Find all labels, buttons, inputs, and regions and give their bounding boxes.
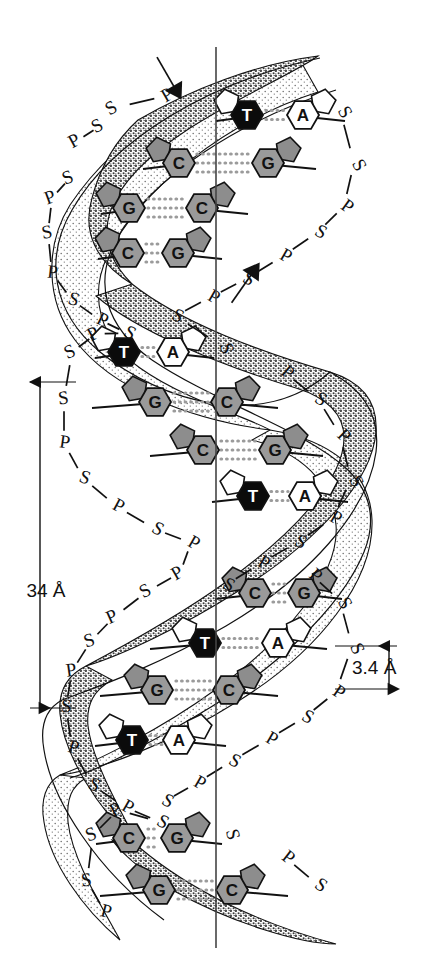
dna-diagram-canvas: TACGGCCGTAGCCGTACGTAGCTACGGC SPPSSPSPSPS… [0, 0, 433, 978]
base-g-right[interactable]: G [259, 436, 291, 464]
base-g-left[interactable]: G [113, 194, 145, 222]
base-letter: G [152, 881, 165, 900]
base-letter: A [173, 731, 185, 750]
base-letter: A [299, 487, 311, 506]
base-letter: C [123, 829, 135, 848]
base-t-left[interactable]: T [237, 482, 269, 510]
base-letter: C [196, 199, 208, 218]
base-a-right[interactable]: A [262, 629, 294, 657]
base-c-left[interactable]: C [163, 149, 195, 177]
base-letter: G [148, 393, 161, 412]
base-letter: C [173, 154, 185, 173]
base-letter: G [297, 584, 310, 603]
base-letter: T [119, 343, 130, 362]
base-letter: C [226, 881, 238, 900]
base-letter: T [248, 487, 259, 506]
base-letter: A [297, 106, 309, 125]
base-letter: G [170, 829, 183, 848]
base-letter: G [122, 199, 135, 218]
base-c-left[interactable]: C [187, 436, 219, 464]
base-c-right[interactable]: C [213, 676, 245, 704]
base-a-right[interactable]: A [157, 338, 189, 366]
base-t-left[interactable]: T [108, 338, 140, 366]
base-letter: G [268, 441, 281, 460]
base-g-left[interactable]: G [141, 676, 173, 704]
base-c-right[interactable]: C [216, 876, 248, 904]
backbone-letter: S [60, 695, 72, 717]
base-letter: G [171, 244, 184, 263]
base-g-right[interactable]: G [161, 824, 193, 852]
base-letter: T [200, 634, 211, 653]
base-a-right[interactable]: A [163, 726, 195, 754]
base-letter: A [167, 343, 179, 362]
base-c-left[interactable]: C [239, 579, 271, 607]
base-c-right[interactable]: C [186, 194, 218, 222]
base-a-right[interactable]: A [287, 101, 319, 129]
backbone-letter: S [80, 869, 93, 891]
backbone-letter: S [57, 387, 70, 409]
base-g-left[interactable]: G [139, 388, 171, 416]
base-letter: C [221, 393, 233, 412]
measurement-label-pitch: 34 Å [26, 580, 65, 601]
base-g-right[interactable]: G [162, 239, 194, 267]
base-letter: C [122, 244, 134, 263]
base-t-left[interactable]: T [231, 101, 263, 129]
base-letter: G [150, 681, 163, 700]
base-g-right[interactable]: G [252, 149, 284, 177]
base-c-left[interactable]: C [113, 824, 145, 852]
base-letter: A [272, 634, 284, 653]
backbone-letter: P [46, 261, 59, 283]
base-c-left[interactable]: C [112, 239, 144, 267]
base-g-left[interactable]: G [143, 876, 175, 904]
base-letter: C [197, 441, 209, 460]
measurement-label-rise: 3.4 Å [352, 657, 397, 678]
base-letter: G [261, 154, 274, 173]
base-a-right[interactable]: A [289, 482, 321, 510]
dna-double-helix-figure: TACGGCCGTAGCCGTACGTAGCTACGGC SPPSSPSPSPS… [0, 0, 433, 978]
base-letter: C [249, 584, 261, 603]
base-letter: T [242, 106, 253, 125]
base-letter: C [223, 681, 235, 700]
base-t-left[interactable]: T [116, 726, 148, 754]
base-letter: T [127, 731, 138, 750]
